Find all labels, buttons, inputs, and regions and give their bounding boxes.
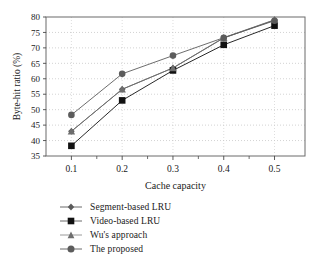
plot-area: 354045505560657075800.10.20.30.40.5 <box>31 12 305 174</box>
y-axis-tick-label: 35 <box>31 151 41 161</box>
y-axis-tick-label: 75 <box>31 28 41 38</box>
series-line <box>71 20 274 132</box>
chart-legend: Segment-based LRU Video-based LRU Wu's a… <box>58 200 258 256</box>
y-axis-tick-label: 80 <box>31 12 41 22</box>
legend-item: Segment-based LRU <box>58 200 258 214</box>
y-axis-tick-label: 40 <box>31 136 41 146</box>
y-axis-tick-label: 50 <box>31 105 41 115</box>
y-axis-tick-label: 45 <box>31 120 41 130</box>
legend-label: Segment-based LRU <box>84 202 171 212</box>
plot-frame <box>46 17 305 156</box>
x-axis-tick-label: 0.3 <box>167 164 179 174</box>
data-point-square <box>220 42 227 49</box>
legend-marker-circle-icon <box>58 242 84 256</box>
legend-marker-triangle-icon <box>58 228 84 242</box>
legend-item: Wu's approach <box>58 228 258 242</box>
x-axis-tick-label: 0.2 <box>116 164 128 174</box>
data-point-square <box>68 143 75 150</box>
legend-label: Wu's approach <box>84 230 147 240</box>
y-axis-title: Byte-hit ratio (%) <box>12 53 23 121</box>
figure-container: 354045505560657075800.10.20.30.40.5Cache… <box>0 0 320 271</box>
legend-marker-diamond-icon <box>58 200 84 214</box>
data-point-circle <box>271 17 278 24</box>
x-axis-title: Cache capacity <box>145 180 206 191</box>
data-point-square <box>119 97 126 104</box>
series-line <box>71 26 274 146</box>
x-axis-tick-label: 0.5 <box>269 164 281 174</box>
legend-item: The proposed <box>58 242 258 256</box>
x-axis-tick-label: 0.1 <box>65 164 77 174</box>
y-axis-tick-label: 70 <box>31 43 41 53</box>
x-axis-tick-label: 0.4 <box>218 164 230 174</box>
legend-label: Video-based LRU <box>84 216 160 226</box>
legend-item: Video-based LRU <box>58 214 258 228</box>
data-point-circle <box>68 112 75 119</box>
y-axis-tick-label: 60 <box>31 74 41 84</box>
data-point-circle <box>220 34 227 41</box>
data-point-circle <box>170 52 177 59</box>
y-axis-tick-label: 55 <box>31 89 41 99</box>
legend-label: The proposed <box>84 244 143 254</box>
series-group <box>68 16 279 149</box>
legend-marker-square-icon <box>58 214 84 228</box>
y-axis-tick-label: 65 <box>31 59 41 69</box>
data-point-circle <box>119 71 126 78</box>
